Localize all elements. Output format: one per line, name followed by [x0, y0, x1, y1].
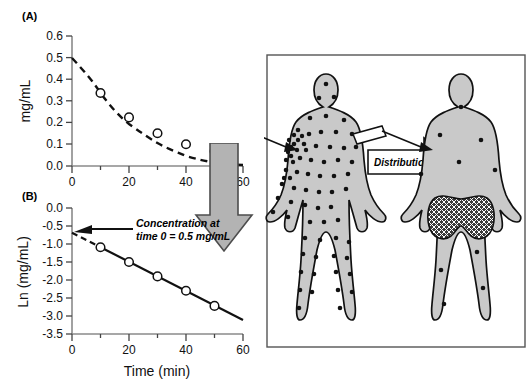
- x-tick-b-0: 0: [69, 343, 76, 357]
- y-axis-title-a: mg/mL: [17, 79, 33, 122]
- x-ticks-b: [72, 334, 243, 341]
- y-tick-a-2: 0.2: [46, 115, 63, 129]
- y-tick-a-4: 0.4: [46, 72, 63, 86]
- data-point: [96, 89, 105, 98]
- x-tick-b-3: 60: [236, 343, 250, 357]
- data-point: [153, 129, 162, 138]
- y-tick-b-1: -0.5: [42, 219, 63, 233]
- y-tick-a-0: 0.0: [46, 159, 63, 173]
- x-tick-b-1: 20: [122, 343, 136, 357]
- data-point: [182, 287, 191, 296]
- x-tick-b-2: 40: [179, 343, 193, 357]
- data-point: [182, 140, 191, 149]
- data-point: [125, 113, 134, 122]
- figure-drug-distribution: (A) (B) (C) 0.6 0.5 0.4 0.3 0.2 0.1 0.0: [0, 0, 532, 386]
- y-tick-a-1: 0.1: [46, 137, 63, 151]
- x-tick-labels-b: 0 20 40 60: [69, 343, 250, 357]
- y-tick-b-7: -3.5: [42, 327, 63, 341]
- data-point: [210, 302, 219, 311]
- y-tick-b-3: -1.5: [42, 255, 63, 269]
- data-point: [153, 272, 162, 281]
- panel-b-chart: 0.0 -0.5 -1.0 -1.5 -2.0 -2.5 -3.0 -3.5 0…: [0, 186, 265, 386]
- annotation-arrowhead-icon: [74, 225, 92, 234]
- y-tick-a-3: 0.3: [46, 94, 63, 108]
- y-tick-b-0: 0.0: [46, 201, 63, 215]
- data-point: [125, 258, 134, 267]
- y-tick-a-5: 0.5: [46, 51, 63, 65]
- y-ticks-a: [66, 36, 72, 166]
- annotation-line-2: time 0 = 0.5 mg/mL: [136, 230, 230, 242]
- data-points-b: [96, 243, 219, 310]
- x-axis-title-b: Time (min): [124, 363, 190, 379]
- y-tick-b-6: -3.0: [42, 309, 63, 323]
- y-tick-b-4: -2.0: [42, 273, 63, 287]
- y-ticks-b: [66, 208, 72, 334]
- regression-line-b: [101, 247, 244, 320]
- data-point: [96, 243, 105, 252]
- y-tick-b-5: -2.5: [42, 291, 63, 305]
- y-tick-b-2: -1.0: [42, 237, 63, 251]
- y-axis-title-b: Ln (mg/mL): [15, 236, 31, 308]
- y-tick-labels-b: 0.0 -0.5 -1.0 -1.5 -2.0 -2.5 -3.0 -3.5: [42, 201, 63, 341]
- annotation-line-1: Concentration at: [136, 217, 220, 229]
- y-tick-labels-a: 0.6 0.5 0.4 0.3 0.2 0.1 0.0: [46, 29, 63, 173]
- panel-c-diagram: Distribution: [264, 52, 532, 382]
- y-tick-a-6: 0.6: [46, 29, 63, 43]
